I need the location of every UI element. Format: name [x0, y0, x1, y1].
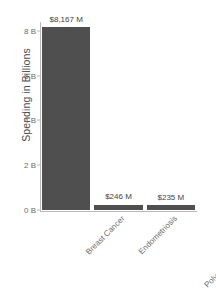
- x-axis-label: Breast Cancer: [84, 214, 127, 257]
- x-axis-label: Polycystic Ovary Syndrome: [202, 214, 216, 290]
- y-tick-mark: [37, 120, 40, 121]
- y-tick-mark: [37, 165, 40, 166]
- bar-value-label: $246 M: [105, 192, 132, 201]
- x-axis-line: [40, 211, 197, 212]
- x-axis-label: Endometriosis: [136, 214, 178, 256]
- bar-value-label: $235 M: [157, 193, 184, 202]
- bar-value-label: $8,167 M: [49, 15, 82, 24]
- y-tick-mark: [37, 210, 40, 211]
- bar: [147, 205, 195, 210]
- bar: [94, 205, 142, 211]
- bar-chart: Spending in Billions 0 B2 B4 B6 B8 B $8,…: [0, 0, 216, 307]
- bar: [42, 27, 90, 210]
- plot-area: 0 B2 B4 B6 B8 B $8,167 M$246 M$235 M: [40, 22, 197, 210]
- y-tick-mark: [37, 75, 40, 76]
- y-tick-mark: [37, 30, 40, 31]
- y-axis-title: Spending in Billions: [20, 15, 32, 175]
